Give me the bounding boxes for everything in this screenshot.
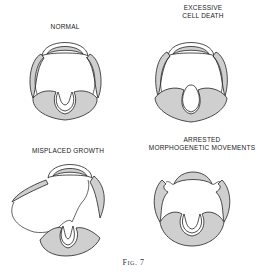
arrested-morphogenetic-movements-embryo-diagram [0,0,267,277]
figure-caption: Fig. 7 [0,258,267,267]
